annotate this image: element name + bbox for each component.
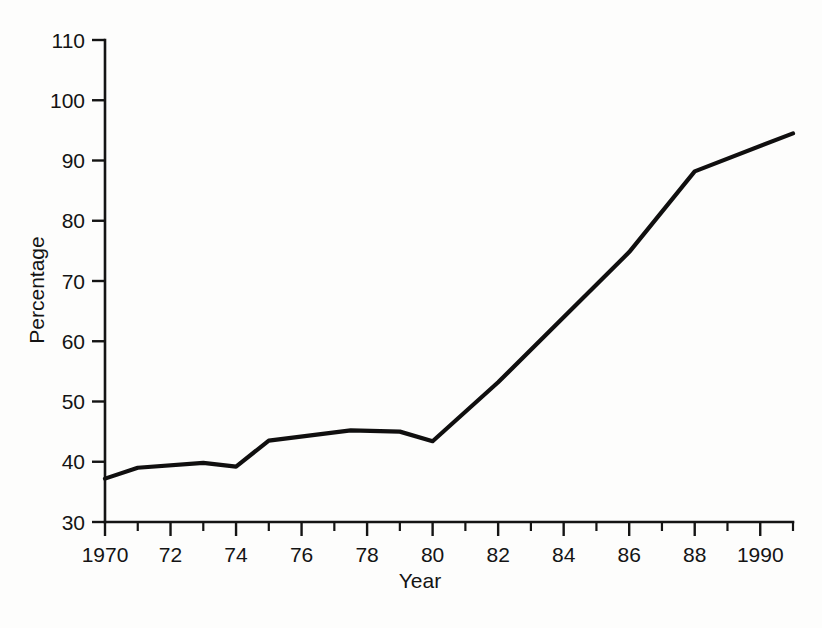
y-axis-ticks (92, 40, 105, 522)
x-tick-label: 86 (618, 543, 641, 566)
y-tick-label: 70 (62, 270, 85, 293)
x-tick-label: 76 (290, 543, 313, 566)
x-tick-label: 72 (159, 543, 182, 566)
x-tick-label: 1970 (82, 543, 129, 566)
x-axis: 19707274767880828486881990 Year (82, 522, 793, 592)
x-axis-tick-labels: 19707274767880828486881990 (82, 543, 784, 566)
y-axis-title: Percentage (25, 236, 48, 343)
x-tick-label: 80 (421, 543, 444, 566)
data-series-group (105, 133, 793, 478)
x-tick-label: 84 (552, 543, 576, 566)
y-tick-label: 60 (62, 330, 85, 353)
y-tick-label: 80 (62, 209, 85, 232)
line-chart: 30405060708090100110 Percentage 19707274… (0, 0, 822, 628)
chart-figure: 30405060708090100110 Percentage 19707274… (0, 0, 822, 628)
y-tick-label: 100 (50, 89, 85, 112)
data-line-percentage (105, 133, 793, 478)
x-tick-label: 78 (355, 543, 378, 566)
y-axis: 30405060708090100110 Percentage (25, 29, 105, 534)
x-tick-label: 82 (486, 543, 509, 566)
x-axis-title: Year (399, 569, 441, 592)
y-tick-label: 50 (62, 390, 85, 413)
x-tick-label: 1990 (737, 543, 784, 566)
y-tick-label: 90 (62, 149, 85, 172)
y-axis-tick-labels: 30405060708090100110 (50, 29, 85, 534)
x-tick-label: 88 (683, 543, 706, 566)
y-tick-label: 30 (62, 511, 85, 534)
x-tick-label: 74 (224, 543, 248, 566)
y-tick-label: 110 (52, 29, 85, 52)
y-tick-label: 40 (62, 450, 85, 473)
